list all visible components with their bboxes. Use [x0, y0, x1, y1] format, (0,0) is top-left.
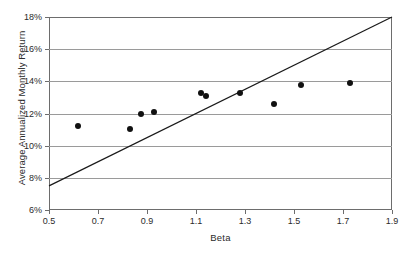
- y-tick-label: 16%: [24, 44, 42, 54]
- x-tick-label: 1.7: [337, 216, 350, 226]
- x-axis-ticks: 0.50.70.91.11.31.51.71.9: [49, 210, 392, 232]
- x-tick-label: 1.9: [386, 216, 399, 226]
- x-tick-label: 1.5: [288, 216, 301, 226]
- plot-area: 6%8%10%12%14%16%18% 0.50.70.91.11.31.51.…: [49, 17, 392, 210]
- x-tick-mark: [294, 210, 295, 214]
- x-tick-mark: [245, 210, 246, 214]
- x-tick-label: 0.9: [141, 216, 154, 226]
- y-tick-label: 10%: [24, 141, 42, 151]
- x-tick-mark: [98, 210, 99, 214]
- x-tick-mark: [343, 210, 344, 214]
- x-tick-mark: [147, 210, 148, 214]
- y-tick-label: 6%: [29, 205, 42, 215]
- x-tick-label: 1.1: [190, 216, 203, 226]
- x-tick-mark: [196, 210, 197, 214]
- y-tick-label: 12%: [24, 109, 42, 119]
- y-tick-label: 14%: [24, 76, 42, 86]
- x-axis-title: Beta: [49, 232, 392, 243]
- x-tick-label: 1.3: [239, 216, 252, 226]
- security-market-line: [49, 17, 392, 210]
- data-point: [127, 126, 133, 132]
- y-tick-label: 18%: [24, 12, 42, 22]
- scatter-chart: Average Annualized Monthly Return 6%8%10…: [0, 0, 411, 255]
- data-point: [203, 93, 209, 99]
- y-tick-label: 8%: [29, 173, 42, 183]
- x-tick-label: 0.5: [43, 216, 56, 226]
- x-tick-mark: [49, 210, 50, 214]
- x-tick-label: 0.7: [92, 216, 105, 226]
- x-tick-mark: [392, 210, 393, 214]
